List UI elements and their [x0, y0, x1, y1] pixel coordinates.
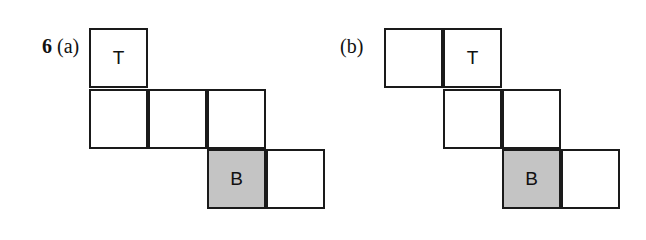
net-square — [384, 28, 443, 88]
square-letter: T — [113, 47, 125, 69]
net-square-b: B — [207, 149, 266, 209]
net-square — [148, 89, 207, 149]
net-square-t: T — [89, 28, 148, 88]
question-number: 6 — [42, 35, 52, 57]
net-square — [443, 89, 502, 149]
part-a-label: (a) — [57, 35, 79, 57]
net-square — [561, 149, 620, 209]
question-label: 6 (a) — [42, 36, 79, 56]
net-square — [207, 89, 266, 149]
square-letter: B — [230, 168, 243, 190]
square-letter: B — [525, 168, 538, 190]
net-square-t: T — [443, 28, 502, 88]
net-square — [502, 89, 561, 149]
square-letter: T — [467, 47, 479, 69]
net-square-b: B — [502, 149, 561, 209]
net-square — [89, 89, 148, 149]
part-b-label: (b) — [340, 36, 363, 56]
net-square — [266, 149, 325, 209]
